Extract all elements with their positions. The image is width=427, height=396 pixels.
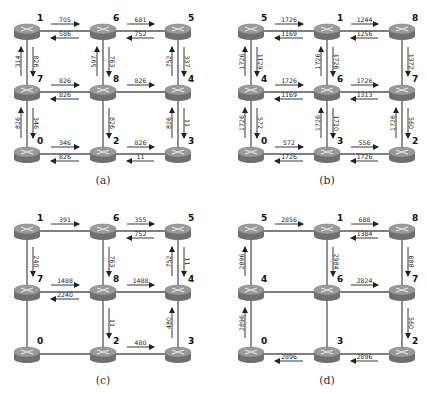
flow-value: 1726: [281, 16, 297, 23]
node-label: 2: [113, 336, 119, 346]
flow-value: 752: [165, 256, 172, 268]
flow-value: 763: [109, 256, 116, 268]
flow-3-2: 556: [351, 139, 378, 147]
flow-value: 337: [184, 56, 191, 68]
router-node-4: 4: [238, 274, 267, 301]
flow-value: 752: [135, 230, 147, 237]
flow-value: 480: [135, 339, 147, 346]
router-node-7: 7: [389, 74, 418, 101]
flow-value: 1726: [357, 77, 373, 84]
flow-value: 1488: [133, 277, 149, 284]
flow-7-0: 346: [33, 108, 40, 138]
router-node-6: 6: [90, 213, 119, 240]
flow-value: 752: [135, 30, 147, 37]
flow-4-6: 1726: [275, 77, 303, 85]
panel-d: 2856688138428962984688282428965602896289…: [238, 213, 419, 387]
flow-value: 1488: [57, 277, 73, 284]
node-label: 5: [261, 13, 267, 23]
network-flow-figure: 7055866817528263147635973377528268268263…: [0, 0, 427, 396]
router-node-0: 0: [14, 336, 43, 363]
router-icon: [14, 347, 40, 363]
router-icon: [314, 347, 340, 363]
flow-value: 1169: [281, 91, 297, 98]
node-label: 2: [113, 136, 119, 146]
node-label: 0: [37, 136, 43, 146]
flow-7-8: 1488: [51, 277, 79, 285]
flow-value: 826: [109, 117, 116, 129]
node-label: 4: [261, 274, 267, 284]
router-node-5: 5: [165, 13, 194, 40]
node-label: 7: [37, 74, 43, 84]
flow-value: 240: [33, 256, 40, 268]
flow-value: 826: [33, 56, 40, 68]
router-node-1: 1: [14, 13, 43, 40]
router-node-0: 0: [238, 336, 267, 363]
flow-1-7: 240: [33, 247, 40, 276]
router-node-8: 8: [389, 213, 418, 240]
flow-2-3: 826: [127, 139, 154, 147]
flow-value: 355: [135, 216, 147, 223]
flow-value: 688: [408, 256, 415, 268]
flow-value: 826: [135, 77, 147, 84]
panel-b: 1726116912441256112917261726172613721726…: [238, 13, 419, 187]
node-label: 0: [261, 336, 267, 346]
router-icon: [389, 24, 415, 40]
flow-5-4: 1129: [257, 47, 264, 76]
node-label: 5: [261, 213, 267, 223]
flow-value: 826: [165, 117, 172, 129]
panel-c: 3913557522407631175214882240148811480480…: [14, 213, 194, 387]
router-icon: [314, 285, 340, 301]
router-node-6: 6: [314, 74, 343, 101]
flow-6-7: 1726: [351, 77, 378, 85]
router-icon: [389, 285, 415, 301]
router-node-2: 2: [90, 136, 119, 163]
flow-value: 826: [59, 153, 71, 160]
flow-4-5: 752: [165, 247, 172, 276]
flow-value: 1384: [357, 230, 373, 237]
flow-0-4: 1726: [238, 108, 245, 138]
router-node-6: 6: [314, 274, 343, 301]
flow-value: 2896: [281, 353, 297, 360]
routers: 012345678: [14, 13, 194, 163]
flow-4-5: 752: [165, 47, 172, 76]
flow-value: 1313: [357, 91, 373, 98]
router-node-2: 2: [389, 136, 418, 163]
router-icon: [165, 147, 191, 163]
flow-value: 2896: [238, 254, 245, 270]
node-label: 6: [337, 74, 343, 84]
flow-4-5: 1726: [238, 47, 245, 76]
node-label: 3: [337, 336, 343, 346]
router-node-5: 5: [165, 213, 194, 240]
flow-1-6: 2984: [333, 247, 340, 276]
node-label: 2: [412, 336, 418, 346]
router-icon: [238, 24, 264, 40]
flow-7-8: 826: [51, 77, 79, 85]
node-label: 5: [188, 213, 194, 223]
flow-value: 1726: [357, 153, 373, 160]
node-label: 7: [37, 274, 43, 284]
router-icon: [389, 347, 415, 363]
flow-value: 763: [109, 56, 116, 68]
router-node-8: 8: [389, 13, 418, 40]
node-label: 7: [412, 274, 418, 284]
flow-value: 1726: [333, 54, 340, 70]
flow-8-2: 826: [109, 108, 116, 138]
router-node-7: 7: [389, 274, 418, 301]
flow-6-8: 763: [109, 47, 116, 76]
routers: 012345678: [238, 213, 418, 363]
router-icon: [238, 85, 264, 101]
node-label: 7: [412, 74, 418, 84]
flow-value: 688: [359, 216, 371, 223]
flow-value: 1372: [408, 54, 415, 70]
router-icon: [314, 147, 340, 163]
flow-value: 705: [59, 16, 71, 23]
node-label: 1: [37, 213, 43, 223]
flow-8-6: 597: [90, 47, 97, 76]
node-label: 1: [37, 13, 43, 23]
flow-value: 1726: [238, 115, 245, 131]
flow-4-5: 2896: [238, 247, 245, 276]
router-icon: [238, 147, 264, 163]
router-icon: [238, 285, 264, 301]
flow-8-4: 826: [127, 77, 154, 85]
router-icon: [314, 224, 340, 240]
